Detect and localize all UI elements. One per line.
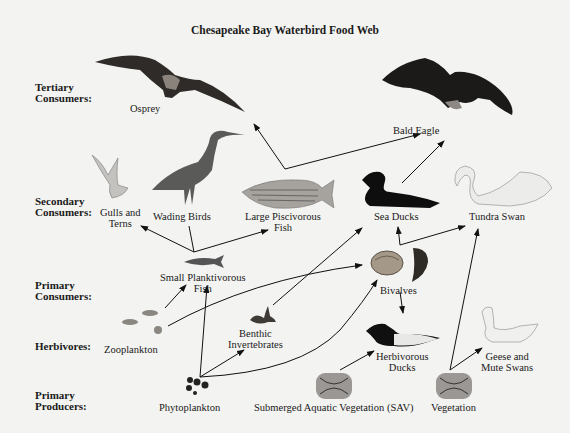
sea-duck-icon [362, 172, 440, 208]
label-benthic-invertebrates: Benthic Invertebrates [228, 328, 283, 350]
striped-bass-icon [242, 180, 334, 209]
label-large-fish: Large Piscivorous Fish [245, 211, 321, 233]
label-sea-ducks: Sea Ducks [374, 211, 419, 222]
label-phytoplankton: Phytoplankton [159, 402, 220, 413]
level-secondary-consumers: Secondary Consumers: [35, 196, 92, 218]
level-label-line: Consumers: [35, 207, 92, 218]
level-label-line: Producers: [35, 401, 87, 412]
label-line: Fish [245, 222, 321, 233]
label-small-fish: Small Planktivorous Fish [160, 272, 245, 294]
label-line: Herbivorous [376, 351, 429, 362]
benthic-invertebrate-icon [250, 306, 276, 324]
label-zooplankton: Zooplankton [104, 344, 158, 355]
level-primary-consumers: Primary Consumers: [35, 280, 92, 302]
label-line: Small Planktivorous [160, 272, 245, 283]
level-label-line: Consumers: [35, 93, 92, 104]
label-vegetation: Vegetation [431, 402, 476, 413]
level-tertiary-consumers: Tertiary Consumers: [35, 82, 92, 104]
phytoplankton-icon [186, 377, 209, 395]
vegetation-icon [436, 373, 472, 399]
label-line: Invertebrates [228, 339, 283, 350]
level-primary-producers: Primary Producers: [35, 390, 87, 412]
label-line: Mute Swans [481, 362, 533, 373]
label-bald-eagle: Bald Eagle [393, 125, 439, 136]
clam-icon [371, 251, 403, 275]
label-line: Ducks [376, 362, 429, 373]
label-tundra-swan: Tundra Swan [469, 211, 525, 222]
label-gulls-terns: Gulls and Terns [100, 207, 141, 229]
label-wading-birds: Wading Birds [153, 211, 211, 222]
herbivorous-duck-icon [366, 324, 440, 347]
label-geese-swans: Geese and Mute Swans [481, 351, 533, 373]
label-bivalves: Bivalves [380, 285, 417, 296]
gull-icon [92, 155, 128, 198]
level-herbivores: Herbivores: [35, 341, 91, 352]
label-osprey: Osprey [130, 103, 160, 114]
zooplankton-icon [122, 310, 162, 334]
label-herbivorous-ducks: Herbivorous Ducks [376, 351, 429, 373]
sav-icon [316, 373, 352, 399]
label-line: Geese and [481, 351, 533, 362]
label-line: Fish [160, 283, 245, 294]
bald-eagle-icon [382, 58, 513, 115]
label-line: Large Piscivorous [245, 211, 321, 222]
level-label-line: Consumers: [35, 291, 92, 302]
diagram-title: Chesapeake Bay Waterbird Food Web [0, 24, 570, 36]
heron-icon [152, 131, 245, 205]
goose-icon [482, 307, 538, 342]
level-label-line: Herbivores: [35, 341, 91, 352]
small-fish-icon [184, 255, 224, 268]
osprey-icon [95, 55, 245, 112]
label-sav: Submerged Aquatic Vegetation (SAV) [254, 402, 414, 413]
label-line: Terns [100, 218, 141, 229]
label-line: Benthic [228, 328, 283, 339]
mussel-icon [412, 248, 428, 282]
tundra-swan-icon [455, 166, 552, 206]
label-line: Gulls and [100, 207, 141, 218]
